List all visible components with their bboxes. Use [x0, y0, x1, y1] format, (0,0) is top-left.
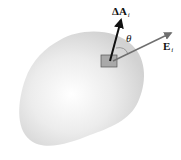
field-vector-symbol: E — [163, 40, 170, 52]
area-vector-symbol: ΔA — [112, 5, 127, 17]
field-vector-subscript: i — [171, 46, 173, 54]
area-vector-subscript: i — [128, 11, 130, 19]
area-vector-label: ΔAi — [112, 6, 130, 19]
flux-diagram — [0, 0, 181, 160]
angle-label: θ — [126, 33, 131, 44]
closed-surface — [19, 32, 144, 146]
field-vector-label: Ei — [163, 41, 173, 54]
